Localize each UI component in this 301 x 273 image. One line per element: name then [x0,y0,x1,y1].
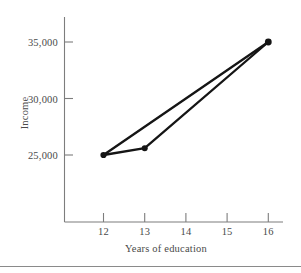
x-axis-title: Years of education [125,243,207,254]
data-point-marker [100,152,106,158]
page-divider-rule [0,266,301,267]
x-tick-label-13: 13 [139,226,150,237]
x-tick-label-15: 15 [222,226,233,237]
x-tick-label-16: 16 [263,226,274,237]
x-tick-label-14: 14 [180,226,191,237]
chart-figure: 35,000 30,000 25,000 12 13 14 15 16 Year… [0,0,301,273]
y-tick-label-25000: 25,000 [14,150,58,161]
x-tick-label-12: 12 [98,226,109,237]
series-linear-line [104,42,269,155]
data-point-marker [265,39,272,46]
y-axis-title: Income [19,97,30,130]
data-point-marker [142,145,148,151]
y-tick-label-35000: 35,000 [14,37,58,48]
